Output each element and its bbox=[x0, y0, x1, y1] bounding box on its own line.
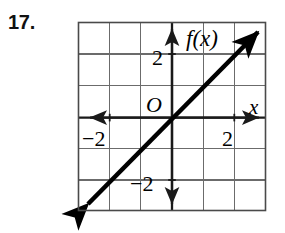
coordinate-plane-svg: f(x) x O 2 −2 2 −2 bbox=[0, 0, 285, 233]
graph-figure: f(x) x O 2 −2 2 −2 bbox=[0, 0, 285, 233]
y-tick-label-positive: 2 bbox=[152, 45, 163, 70]
y-tick-label-negative: −2 bbox=[130, 171, 153, 196]
x-axis-label: x bbox=[248, 95, 259, 119]
x-tick-label-negative: −2 bbox=[82, 126, 105, 151]
y-axis-label: f(x) bbox=[186, 26, 218, 51]
worksheet-problem-figure: 17. bbox=[0, 0, 285, 233]
x-tick-label-positive: 2 bbox=[222, 126, 233, 151]
origin-label: O bbox=[146, 92, 162, 117]
